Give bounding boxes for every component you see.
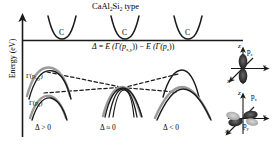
y-axis-label: Energy (eV)	[8, 23, 17, 95]
delta-zero-label: Δ ≈ 0	[100, 124, 116, 131]
orbital-label-px: px	[251, 94, 257, 101]
orbital-pz-axis-x: x	[227, 78, 230, 85]
orbital-label-py: py	[243, 123, 249, 130]
orbital-pz-axis-y: y	[263, 63, 266, 70]
orbital-lobe-up	[239, 54, 248, 69]
conduction-band-label: C	[59, 29, 64, 37]
connector-pz-lower	[44, 88, 118, 94]
orbital-lobe-down	[239, 68, 248, 83]
orbital-pz-axis-z: z	[238, 43, 241, 50]
connector-right-lower	[128, 88, 176, 92]
delta-negative-label: Δ < 0	[163, 124, 179, 131]
valence-band-label-pz: Γ(pz)	[29, 100, 42, 107]
orbital-pxpy-axis-z: z	[238, 90, 241, 97]
band-structure-figure: CaAl2Si2 type Energy (eV) C C C Δ = E (Γ…	[0, 0, 272, 147]
connector-pxy-upper	[47, 72, 118, 87]
band-pxy-lower-dark	[157, 89, 211, 120]
delta-positive-label: Δ > 0	[35, 124, 51, 131]
panel-delta-zero-bands	[103, 87, 142, 117]
figure-title: CaAl2Si2 type	[92, 2, 139, 11]
conduction-band-label: C	[122, 29, 127, 37]
valence-band-label-pxy: Γ(px,y)	[26, 73, 43, 80]
orbital-pxpy-axis-y: y	[263, 113, 266, 120]
dashed-connectors	[44, 72, 178, 93]
orbital-pxpy-axis-x: x	[225, 128, 228, 135]
delta-equation: Δ = E (Γ(px,y)) − E (Γ(pz))	[92, 43, 174, 51]
conduction-band-label: C	[185, 29, 190, 37]
connector-right-upper	[128, 74, 178, 87]
orbital-label-pz: pz	[247, 49, 253, 56]
